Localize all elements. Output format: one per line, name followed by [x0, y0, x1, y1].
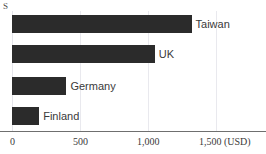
- clipped-title-remnant: ........ .. .........: [118, 0, 248, 4]
- bar-row[interactable]: Finland: [0, 104, 266, 134]
- bar-row[interactable]: UK: [0, 42, 266, 72]
- x-tick-label-1500: 1,500: [199, 136, 222, 148]
- bar-series: TaiwanUKGermanyFinland: [0, 11, 266, 132]
- bar-label-germany: Germany: [70, 77, 115, 95]
- bar-finland[interactable]: [12, 107, 39, 125]
- plot-area: TaiwanUKGermanyFinland: [0, 11, 266, 132]
- bar-row[interactable]: Germany: [0, 74, 266, 104]
- bar-taiwan[interactable]: [12, 15, 192, 33]
- bar-chart: ........ .. ......... S TaiwanUKGermanyF…: [0, 0, 266, 154]
- bar-uk[interactable]: [12, 45, 155, 63]
- bar-label-uk: UK: [159, 45, 174, 63]
- x-axis-line: [0, 131, 266, 132]
- x-tick-label-0: 0: [10, 136, 15, 148]
- x-tick-label-500: 500: [73, 136, 88, 148]
- x-axis-unit-label: (USD): [224, 136, 251, 148]
- x-tick-label-1000: 1,000: [137, 136, 160, 148]
- bar-germany[interactable]: [12, 77, 66, 95]
- currency-marker-label: S: [3, 1, 8, 11]
- bar-label-finland: Finland: [43, 107, 79, 125]
- bar-row[interactable]: Taiwan: [0, 12, 266, 42]
- bar-label-taiwan: Taiwan: [196, 15, 230, 33]
